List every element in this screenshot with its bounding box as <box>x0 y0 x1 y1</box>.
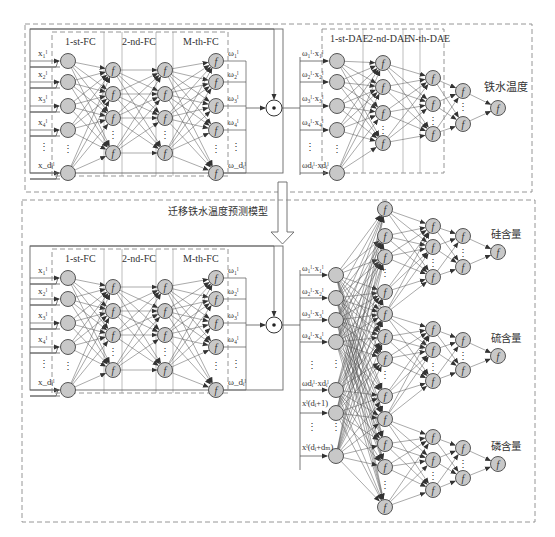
top-input-label: x₂ˡ <box>38 69 48 79</box>
ellipsis: ⋮ <box>380 479 390 490</box>
ellipsis: ⋮ <box>331 421 341 432</box>
bottom-layer-1st-fc: 1-st-FC <box>65 253 96 264</box>
top-layer-1st-dae: 1-st-DAE <box>330 33 369 44</box>
top-layer-mth-fc: M-th-FC <box>183 36 219 47</box>
input-node <box>61 383 76 398</box>
bottom-fc-output-label: ω₂ˡ <box>228 286 239 296</box>
top-input-label: x_dᵢˡ <box>38 160 55 170</box>
ellipsis: ⋮ <box>231 358 241 369</box>
ellipsis: ⋮ <box>428 115 438 126</box>
top-output-label: 铁水温度 <box>484 80 528 94</box>
bottom-input-label: x₂ˡ <box>38 286 48 296</box>
bottom-fc-output-label: ω_dᵢˡ <box>228 377 246 387</box>
top-fc-output-label: ω₂ˡ <box>228 69 239 79</box>
ellipsis: ⋮ <box>160 129 170 140</box>
bottom-dae-input-label: ωdᵢˡ·xdᵢˡ <box>302 378 329 388</box>
top-dae-input-label: ω₃ˡ·x₃ˡ <box>302 93 324 103</box>
input-node <box>61 271 76 286</box>
input-node <box>330 99 345 114</box>
bottom-input-label: x_dᵢˡ <box>38 377 55 387</box>
bottom-input-label: x₄ˡ <box>38 334 48 344</box>
ellipsis: ⋮ <box>332 143 342 154</box>
ellipsis: ⋮ <box>39 141 49 152</box>
input-node <box>329 291 344 306</box>
connection-lines <box>30 29 490 507</box>
bottom-output-phosphorus: 磷含量 <box>491 440 522 452</box>
ellipsis: ⋮ <box>380 267 390 278</box>
top-input-label: x₃ˡ <box>38 93 48 103</box>
bottom-layer-mth-fc: M-th-FC <box>183 253 219 264</box>
top-dae-input-label: ωdᵢˡ·xdᵢˡ <box>302 160 329 170</box>
input-node <box>61 123 76 138</box>
ellipsis: ⋮ <box>307 359 317 370</box>
ellipsis: ⋮ <box>380 369 390 380</box>
input-node <box>329 335 344 350</box>
input-node <box>330 123 345 138</box>
input-node <box>329 268 344 283</box>
ellipsis: ⋮ <box>458 247 468 258</box>
bottom-layer-2nd-fc: 2-nd-FC <box>122 253 156 264</box>
transfer-learning-network-diagram: ffffffffffffffffffffffffffffffffffffffff… <box>0 0 555 537</box>
transfer-label: 迁移铁水温度预测模型 <box>168 205 268 217</box>
bottom-input-label: x₁ˡ <box>38 265 48 275</box>
bottom-output-sulfur: 硫含量 <box>491 332 522 344</box>
input-node <box>329 313 344 328</box>
top-layer-2nd-fc: 2-nd-FC <box>122 36 156 47</box>
bottom-output-silicon: 硅含量 <box>491 228 522 240</box>
bottom-dae-input-label: xˡ(dᵢ+dₘ) <box>302 442 333 452</box>
ellipsis: ⋮ <box>211 143 221 154</box>
ellipsis: ⋮ <box>231 141 241 152</box>
input-node <box>329 406 344 421</box>
top-input-label: x₁ˡ <box>38 48 48 58</box>
input-node <box>329 383 344 398</box>
ellipsis: ⋮ <box>160 346 170 357</box>
bottom-fc-output-label: ω₄ˡ <box>228 334 239 344</box>
ellipsis: ⋮ <box>428 257 438 268</box>
ellipsis: ⋮ <box>108 346 118 357</box>
bottom-dae-input-label: ω₂ˡ·x₂ˡ <box>302 286 324 296</box>
ellipsis: ⋮ <box>458 101 468 112</box>
input-node <box>330 54 345 69</box>
input-node <box>330 166 345 181</box>
ellipsis: ⋮ <box>458 350 468 361</box>
input-node <box>330 75 345 90</box>
input-node <box>61 292 76 307</box>
top-fc-output-label: ω_dᵢˡ <box>228 160 246 170</box>
top-dae-input-label: ω₁ˡ·x₁ˡ <box>302 48 324 58</box>
top-dae-input-label: ω₂ˡ·x₂ˡ <box>302 69 324 79</box>
top-fc-output-label: ω₃ˡ <box>228 93 239 103</box>
ellipsis: ⋮ <box>39 358 49 369</box>
top-input-label: x₄ˡ <box>38 117 48 127</box>
ellipsis: ⋮ <box>305 141 315 152</box>
ellipsis: ⋮ <box>331 358 341 369</box>
bottom-dae-input-label: ω₁ˡ·x₁ˡ <box>302 263 324 273</box>
input-node <box>61 340 76 355</box>
bottom-dae-input-label: ω₄ˡ·x₄ˡ <box>302 330 324 340</box>
input-node <box>61 316 76 331</box>
ellipsis: ⋮ <box>458 458 468 469</box>
top-dae-input-label: ω₄ˡ·x₄ˡ <box>302 117 324 127</box>
top-fc-output-label: ω₁ˡ <box>228 48 239 58</box>
bottom-dae-input-label: ω₃ˡ·x₃ˡ <box>302 308 324 318</box>
bottom-dae-input-label: xˡ(dᵢ+1) <box>302 398 328 408</box>
top-fc-output-label: ω₄ˡ <box>228 117 239 127</box>
input-node <box>61 99 76 114</box>
ellipsis: ⋮ <box>211 360 221 371</box>
ellipsis: ⋮ <box>428 361 438 372</box>
transfer-arrow-icon <box>271 182 294 244</box>
ellipsis: ⋮ <box>307 421 317 432</box>
ellipsis: ⋮ <box>63 143 73 154</box>
input-node <box>61 54 76 69</box>
bottom-fc-output-label: ω₁ˡ <box>228 265 239 275</box>
input-node <box>61 75 76 90</box>
ellipsis: ⋮ <box>378 124 388 135</box>
top-layer-1st-fc: 1-st-FC <box>65 36 96 47</box>
input-node <box>61 166 76 181</box>
top-layer-2nd-dae: 2-nd-DAE <box>368 33 410 44</box>
top-layer-nth-dae: N-th-DAE <box>408 33 450 44</box>
bottom-fc-output-label: ω₃ˡ <box>228 310 239 320</box>
ellipsis: ⋮ <box>108 129 118 140</box>
bottom-input-label: x₃ˡ <box>38 310 48 320</box>
ellipsis: ⋮ <box>63 360 73 371</box>
ellipsis: ⋮ <box>428 470 438 481</box>
